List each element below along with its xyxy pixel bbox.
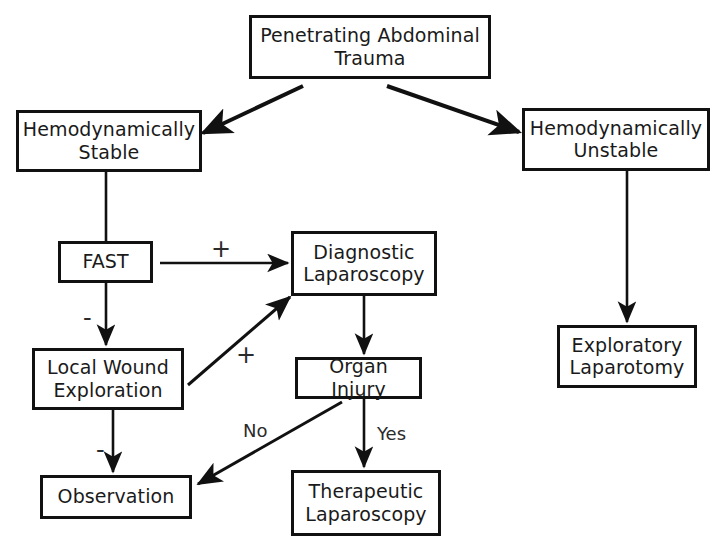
node-label: Hemodynamically Stable xyxy=(23,118,195,163)
node-label: Penetrating Abdominal Trauma xyxy=(260,24,480,69)
node-label: Exploratory Laparotomy xyxy=(570,334,685,379)
node-hemodynamically-stable[interactable]: Hemodynamically Stable xyxy=(16,110,202,172)
node-label: Local Wound Exploration xyxy=(47,356,169,401)
node-organ-injury[interactable]: Organ Injury xyxy=(295,357,422,399)
node-exploratory-laparotomy[interactable]: Exploratory Laparotomy xyxy=(557,325,697,388)
node-local-wound-exploration[interactable]: Local Wound Exploration xyxy=(32,348,184,410)
edge-label-organ-injury-no: No xyxy=(243,422,267,440)
edge-label-organ-injury-yes: Yes xyxy=(377,425,406,443)
edge-root-to-stable xyxy=(203,86,303,133)
node-fast[interactable]: FAST xyxy=(58,241,153,283)
node-diagnostic-laparoscopy[interactable]: Diagnostic Laparoscopy xyxy=(291,231,437,296)
node-therapeutic-laparoscopy[interactable]: Therapeutic Laparoscopy xyxy=(291,470,441,536)
edge-root-to-unstable xyxy=(387,86,519,132)
edge-label-local-wound-exploration-negative: - xyxy=(96,438,105,462)
node-label: Therapeutic Laparoscopy xyxy=(305,480,426,525)
node-label: Organ Injury xyxy=(302,355,415,400)
node-hemodynamically-unstable[interactable]: Hemodynamically Unstable xyxy=(522,108,710,171)
edge-label-fast-negative: - xyxy=(83,306,92,330)
flowchart-canvas: Penetrating Abdominal Trauma Hemodynamic… xyxy=(0,0,718,557)
node-observation[interactable]: Observation xyxy=(40,475,192,519)
node-label: Hemodynamically Unstable xyxy=(530,117,702,162)
node-label: FAST xyxy=(82,250,128,272)
edge-label-fast-positive: + xyxy=(211,237,231,261)
node-label: Diagnostic Laparoscopy xyxy=(303,241,424,286)
node-label: Observation xyxy=(58,485,175,507)
edge-label-local-wound-exploration-positive: + xyxy=(236,343,256,367)
node-penetrating-abdominal-trauma[interactable]: Penetrating Abdominal Trauma xyxy=(249,15,491,79)
